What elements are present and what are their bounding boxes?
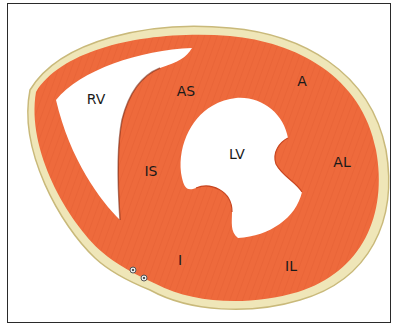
coronary-vessel-icon bbox=[132, 269, 134, 271]
label-right-ventricle: RV bbox=[87, 91, 106, 107]
coronary-vessel-icon bbox=[143, 277, 145, 279]
label-inferior: I bbox=[178, 252, 182, 268]
label-anterior: A bbox=[297, 73, 307, 89]
label-left-ventricle: LV bbox=[229, 146, 245, 162]
label-inferoseptal: IS bbox=[144, 163, 157, 179]
label-anterolateral: AL bbox=[333, 154, 350, 170]
label-anteroseptal: AS bbox=[177, 83, 195, 99]
label-inferolateral: IL bbox=[285, 258, 297, 274]
